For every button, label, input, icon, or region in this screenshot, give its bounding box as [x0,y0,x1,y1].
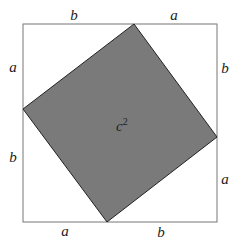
label-bottom-a: a [61,223,69,239]
label-top-a: a [170,7,178,23]
label-top-b: b [70,7,78,23]
diagram-svg: b a a b b a a b c2 [0,0,238,248]
label-left-a: a [9,59,17,75]
label-right-a: a [221,171,229,187]
label-bottom-b: b [157,224,165,240]
label-exponent: 2 [123,116,128,127]
pythagorean-diagram: b a a b b a a b c2 [0,0,238,248]
label-right-b: b [221,60,229,76]
label-left-b: b [9,149,17,165]
